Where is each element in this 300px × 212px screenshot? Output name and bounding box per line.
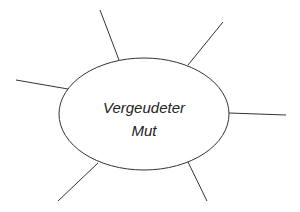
branch-right <box>229 113 286 115</box>
branch-top-right <box>188 22 223 65</box>
branch-bottom-right <box>188 162 207 201</box>
center-label-line-2: Mut <box>131 122 157 139</box>
branch-top-left <box>100 10 119 60</box>
center-label-line-1: Vergeudeter <box>103 99 186 116</box>
mind-map-diagram: Vergeudeter Mut <box>0 0 300 212</box>
branch-bottom-left <box>58 163 98 201</box>
branch-left <box>16 80 68 89</box>
